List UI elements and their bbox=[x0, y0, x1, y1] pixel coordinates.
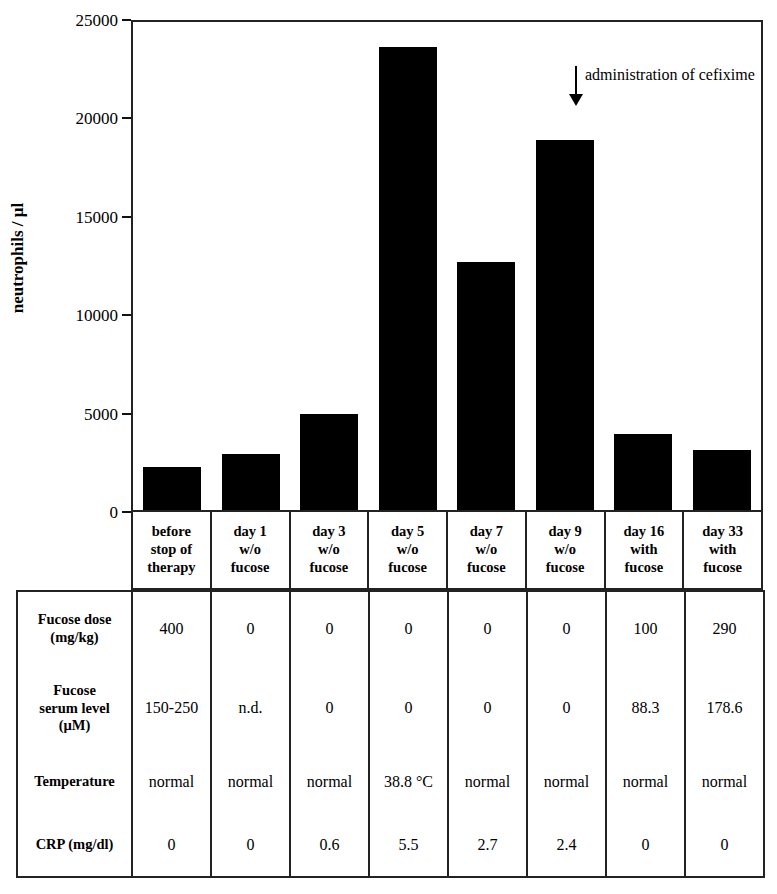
y-tick-mark-20000 bbox=[122, 117, 131, 119]
table-cell: n.d. bbox=[212, 666, 289, 751]
table-cell: normal bbox=[133, 751, 210, 813]
table-row-label-0: Fucose dose(mg/kg) bbox=[18, 592, 131, 666]
category-header-line: w/o bbox=[397, 541, 419, 559]
table-row-label-2: Temperature bbox=[18, 751, 131, 813]
y-tick-label-20000: 20000 bbox=[76, 110, 119, 127]
bar-cell bbox=[526, 22, 605, 510]
category-header-line: with bbox=[630, 541, 657, 559]
table-cell: normal bbox=[528, 751, 605, 813]
y-tick-mark-5000 bbox=[122, 413, 131, 415]
table-row-label-column: Fucose dose(mg/kg)Fucoseserum level(µM)T… bbox=[18, 592, 133, 876]
table-column-0: 400150-250normal0 bbox=[133, 592, 212, 876]
table-column-2: 00normal0.6 bbox=[291, 592, 370, 876]
table-cell: 0 bbox=[291, 592, 368, 666]
category-header-line: fucose bbox=[310, 559, 349, 577]
y-tick-mark-15000 bbox=[122, 216, 131, 218]
bar-cell bbox=[604, 22, 683, 510]
table-row-label-line: CRP (mg/dl) bbox=[36, 836, 114, 854]
category-header-line: stop of bbox=[151, 541, 193, 559]
category-header-line: fucose bbox=[467, 559, 506, 577]
table-row-label-3: CRP (mg/dl) bbox=[18, 813, 131, 875]
bar-2 bbox=[300, 414, 358, 510]
plot-area: administration of cefixime bbox=[131, 20, 763, 512]
category-header-line: fucose bbox=[546, 559, 585, 577]
table-row-label-line: Fucose dose bbox=[38, 611, 112, 629]
category-header-line: before bbox=[152, 523, 191, 541]
y-tick-label-25000: 25000 bbox=[76, 12, 119, 29]
cefixime-arrow-head-icon bbox=[569, 94, 583, 106]
table-row-label-line: serum level bbox=[39, 700, 109, 718]
y-tick-label-15000: 15000 bbox=[76, 208, 119, 225]
bar-6 bbox=[614, 434, 672, 510]
table-column-3: 0038.8 °C5.5 bbox=[370, 592, 449, 876]
table-cell: 0 bbox=[528, 666, 605, 751]
bar-cell bbox=[369, 22, 448, 510]
bar-4 bbox=[457, 262, 515, 510]
bar-cell bbox=[683, 22, 762, 510]
parameter-table: Fucose dose(mg/kg)Fucoseserum level(µM)T… bbox=[16, 590, 765, 878]
bar-5 bbox=[536, 140, 594, 510]
table-row-label-line: Temperature bbox=[34, 773, 115, 791]
category-header-line: fucose bbox=[703, 559, 742, 577]
category-header-line: w/o bbox=[239, 541, 261, 559]
table-cell: 150-250 bbox=[133, 666, 210, 751]
table-column-7: 290178.6normal0 bbox=[686, 592, 763, 876]
table-row-label-line: (µM) bbox=[59, 717, 91, 735]
table-cell: normal bbox=[607, 751, 684, 813]
table-cell: normal bbox=[449, 751, 526, 813]
y-tick-label-10000: 10000 bbox=[76, 307, 119, 324]
y-tick-mark-10000 bbox=[122, 314, 131, 316]
table-cell: 0 bbox=[607, 813, 684, 875]
category-header-6: day 16withfucose bbox=[606, 512, 685, 588]
table-value-columns: 400150-250normal00n.d.normal000normal0.6… bbox=[133, 592, 763, 876]
table-row-label-line: Fucose bbox=[53, 682, 96, 700]
y-tick-mark-0 bbox=[122, 511, 131, 513]
category-header-2: day 3w/ofucose bbox=[291, 512, 370, 588]
category-header-line: fucose bbox=[231, 559, 270, 577]
table-cell: 0 bbox=[449, 592, 526, 666]
bar-cell bbox=[133, 22, 212, 510]
table-cell: normal bbox=[686, 751, 763, 813]
table-cell: 0 bbox=[291, 666, 368, 751]
table-row-label-line: (mg/kg) bbox=[50, 629, 98, 647]
category-header-line: day 9 bbox=[548, 523, 581, 541]
category-header-line: day 3 bbox=[312, 523, 345, 541]
table-column-4: 00normal2.7 bbox=[449, 592, 528, 876]
table-cell: 0 bbox=[449, 666, 526, 751]
table-cell: 88.3 bbox=[607, 666, 684, 751]
category-header-7: day 33withfucose bbox=[684, 512, 761, 588]
bar-series bbox=[133, 22, 761, 510]
category-header-line: fucose bbox=[388, 559, 427, 577]
table-cell: 0 bbox=[370, 666, 447, 751]
bar-7 bbox=[693, 450, 751, 510]
table-cell: 2.4 bbox=[528, 813, 605, 875]
bar-3 bbox=[379, 47, 437, 510]
category-header-band: beforestop oftherapyday 1w/ofucoseday 3w… bbox=[131, 512, 763, 590]
table-cell: 0 bbox=[686, 813, 763, 875]
y-tick-label-5000: 5000 bbox=[84, 405, 118, 422]
category-header-3: day 5w/ofucose bbox=[369, 512, 448, 588]
bar-cell bbox=[290, 22, 369, 510]
category-header-0: beforestop oftherapy bbox=[133, 512, 212, 588]
table-row-label-1: Fucoseserum level(µM) bbox=[18, 666, 131, 751]
category-header-line: day 1 bbox=[233, 523, 266, 541]
table-cell: 290 bbox=[686, 592, 763, 666]
category-header-5: day 9w/ofucose bbox=[527, 512, 606, 588]
figure-neutrophil-counts: neutrophils / µl 25000200001500010000500… bbox=[0, 0, 777, 894]
category-header-4: day 7w/ofucose bbox=[448, 512, 527, 588]
table-column-6: 10088.3normal0 bbox=[607, 592, 686, 876]
category-header-line: therapy bbox=[147, 559, 195, 577]
y-axis-title: neutrophils / µl bbox=[8, 158, 28, 358]
category-header-line: day 5 bbox=[391, 523, 424, 541]
table-cell: 178.6 bbox=[686, 666, 763, 751]
category-header-line: with bbox=[709, 541, 736, 559]
table-cell: 2.7 bbox=[449, 813, 526, 875]
category-header-line: day 7 bbox=[470, 523, 503, 541]
category-header-line: w/o bbox=[554, 541, 576, 559]
table-cell: 0 bbox=[212, 813, 289, 875]
table-column-5: 00normal2.4 bbox=[528, 592, 607, 876]
cefixime-arrow-shaft-icon bbox=[575, 66, 577, 96]
table-cell: normal bbox=[291, 751, 368, 813]
table-cell: 5.5 bbox=[370, 813, 447, 875]
table-cell: 0 bbox=[133, 813, 210, 875]
